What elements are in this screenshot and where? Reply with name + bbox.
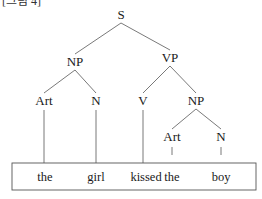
- edge-vp-v: [143, 66, 170, 93]
- edge-vp-np2: [170, 66, 196, 93]
- node-np1: NP: [67, 54, 84, 69]
- edge-np1-n1: [75, 70, 96, 93]
- node-art1: Art: [35, 93, 53, 108]
- word-girl-1: girl: [87, 170, 105, 184]
- node-np2: NP: [188, 93, 205, 108]
- node-n2: N: [216, 129, 226, 144]
- node-s: S: [117, 7, 124, 22]
- word-the-3: the: [164, 170, 180, 184]
- node-art2: Art: [163, 129, 181, 144]
- edge-np1-art1: [44, 70, 75, 93]
- edge-s-vp: [121, 23, 170, 50]
- edge-np2-n2: [196, 109, 221, 129]
- sentence-words: thegirlkissedtheboy: [37, 170, 231, 184]
- word-kissed-2: kissed: [130, 170, 162, 184]
- node-n1: N: [91, 93, 101, 108]
- word-boy-4: boy: [212, 170, 232, 184]
- tree-nodes: SNPVPArtNVNPArtN: [35, 7, 226, 144]
- edge-np2-art2: [172, 109, 196, 129]
- node-v: V: [138, 93, 148, 108]
- edge-s-np1: [75, 23, 121, 54]
- syntax-tree-diagram: SNPVPArtNVNPArtN thegirlkissedtheboy: [0, 0, 262, 199]
- word-the-0: the: [37, 170, 53, 184]
- node-vp: VP: [162, 50, 179, 65]
